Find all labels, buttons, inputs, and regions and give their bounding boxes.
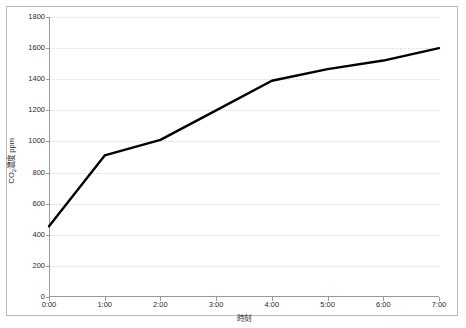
y-axis-tick-label: 1800 [11,13,45,21]
line-chart: CO2濃度 ppm 020040060080010001200140016001… [7,7,459,317]
gridline [50,79,439,80]
y-axis-tick-label: 1400 [11,75,45,83]
figure-frame: CO2濃度 ppm 020040060080010001200140016001… [6,6,458,316]
y-axis-tick-label: 1600 [11,44,45,52]
y-axis-tick-label: 200 [11,262,45,270]
plot-area [49,17,439,297]
x-axis-tick-label: 2:00 [153,301,168,309]
y-axis-tick-label: 400 [11,231,45,239]
y-axis-tick-label: 1200 [11,107,45,115]
gridline [50,48,439,49]
x-axis-tick-label: 3:00 [209,301,224,309]
y-axis-tick-label: 0 [11,293,45,301]
gridline [50,141,439,142]
y-axis-tick-label: 800 [11,169,45,177]
gridline [50,173,439,174]
x-axis-tick-label: 5:00 [320,301,335,309]
gridline [50,17,439,18]
x-axis-tick-label: 4:00 [265,301,280,309]
x-axis-tick-label: 0:00 [42,301,57,309]
gridline [50,266,439,267]
gridline [50,204,439,205]
y-axis-tick-label: 1000 [11,138,45,146]
y-axis-tick-label: 600 [11,200,45,208]
gridline [50,110,439,111]
gridline [50,235,439,236]
x-axis-tick-label: 1:00 [97,301,112,309]
x-axis-tick-label: 6:00 [376,301,391,309]
x-axis-tick-label: 7:00 [432,301,447,309]
x-axis-title: 時刻 [49,315,439,323]
